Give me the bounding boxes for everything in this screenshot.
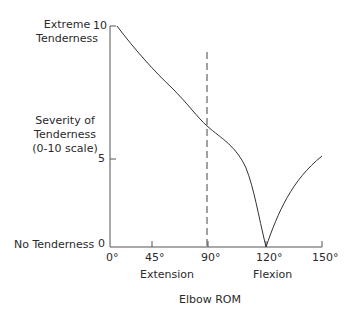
y-axis-label-line3: (0-10 scale) (30, 142, 100, 156)
region-label-extension: Extension (140, 268, 194, 282)
x-tick-label-45: 45° (145, 251, 165, 264)
y-axis-label-line1: Severity of (30, 114, 100, 128)
y-top-label: Extreme Tenderness (34, 18, 100, 46)
x-axis-label: Elbow ROM (179, 293, 241, 307)
y-top-label-line1: Extreme (34, 18, 100, 32)
y-top-label-line2: Tenderness (34, 32, 100, 46)
y-axis-label: Severity of Tenderness (0-10 scale) (30, 114, 100, 156)
y-bottom-label: No Tenderness (14, 238, 94, 252)
y-tick-label-10: 10 (93, 19, 107, 32)
x-tick-label-0: 0° (106, 251, 119, 264)
x-tick-label-120: 120° (256, 251, 283, 264)
y-axis-label-line2: Tenderness (30, 128, 100, 142)
y-tick-label-0: 0 (98, 237, 105, 250)
x-tick-label-150: 150° (312, 251, 339, 264)
tenderness-curve (117, 26, 322, 247)
x-tick-label-90: 90° (201, 251, 221, 264)
region-label-flexion: Flexion (253, 268, 292, 282)
y-tick-label-5: 5 (98, 152, 105, 165)
